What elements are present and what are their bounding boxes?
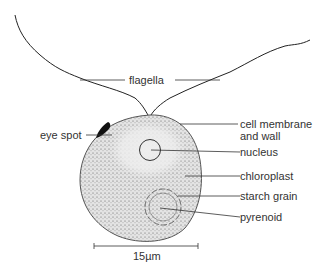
flagellum-right	[151, 40, 310, 115]
label-nucleus: nucleus	[240, 146, 278, 158]
label-cell-membrane-2: and wall	[240, 130, 280, 142]
light-cytoplasm	[110, 122, 186, 178]
label-starch-grain: starch grain	[240, 190, 297, 202]
scale-bar-label: 15µm	[133, 250, 161, 262]
flagellum-left	[15, 15, 148, 115]
label-chloroplast: chloroplast	[240, 170, 293, 182]
label-flagella: flagella	[129, 74, 164, 86]
label-pyrenoid: pyrenoid	[240, 211, 282, 223]
label-cell-membrane-1: cell membrane	[240, 118, 312, 130]
label-eye-spot: eye spot	[40, 129, 82, 141]
